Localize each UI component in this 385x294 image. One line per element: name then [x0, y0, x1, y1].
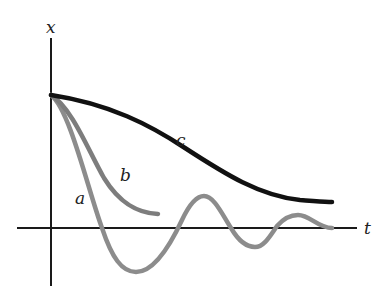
curve-b: [51, 95, 158, 214]
curve-b-label: b: [120, 165, 131, 185]
y-axis-label: x: [46, 17, 56, 37]
curve-c: [51, 95, 332, 202]
curve-a: [51, 95, 332, 272]
damped-oscillation-diagram: x t a b c: [0, 0, 385, 294]
t-axis-label: t: [364, 218, 371, 238]
curve-c-label: c: [176, 130, 186, 150]
curve-a-label: a: [75, 188, 85, 208]
